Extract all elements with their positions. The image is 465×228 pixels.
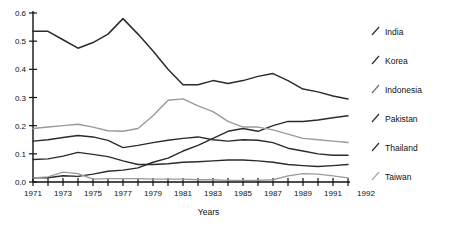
legend-marker-indonesia-diagonal-slash-icon [372,85,379,93]
chart-canvas: 0.00.10.20.30.40.50.61971197319751977197… [0,0,465,228]
y-tick-label: 0.2 [15,122,27,131]
legend-label-thailand: Thailand [385,143,418,153]
y-tick-label: 0.4 [15,65,27,74]
x-axis-title: Years [198,207,219,217]
legend-label-indonesia: Indonesia [385,85,422,95]
series-line-thailand [33,152,348,166]
x-tick-label: 1983 [204,189,222,198]
y-tick-label: 0.3 [15,94,27,103]
x-tick-label: 1971 [24,189,42,198]
y-tick-label: 0.6 [15,9,27,18]
series-line-india [33,19,348,99]
legend-marker-india-diagonal-slash-icon [372,27,379,35]
legend-label-taiwan: Taiwan [385,172,412,182]
legend-label-korea: Korea [385,56,408,66]
y-tick-label: 0.5 [15,37,27,46]
x-tick-label: 1991 [324,189,342,198]
x-tick-label: 1975 [84,189,102,198]
legend-marker-taiwan-diagonal-slash-icon [372,172,379,180]
x-tick-label: 1981 [174,189,192,198]
legend-marker-thailand-diagonal-slash-icon [372,143,379,151]
line-chart: 0.00.10.20.30.40.50.61971197319751977197… [0,0,465,228]
legend-label-india: India [385,27,404,37]
x-tick-label: 1987 [264,189,282,198]
x-tick-label: 1973 [54,189,72,198]
x-tick-label: 1977 [114,189,132,198]
x-tick-label: 1979 [144,189,162,198]
x-tick-label: 1989 [294,189,312,198]
legend-marker-pakistan-diagonal-slash-icon [372,114,379,122]
y-tick-label: 0.0 [15,178,27,187]
x-tick-label: 1985 [234,189,252,198]
legend-marker-korea-diagonal-slash-icon [372,56,379,64]
legend-label-pakistan: Pakistan [385,114,418,124]
x-tick-label: 1992 [357,189,375,198]
y-tick-label: 0.1 [15,150,27,159]
